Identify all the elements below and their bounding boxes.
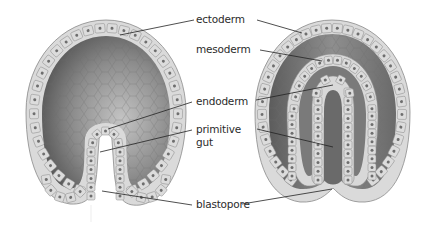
cell: [288, 129, 296, 137]
cell: [95, 23, 106, 33]
cell: [314, 176, 322, 184]
cell: [29, 109, 38, 119]
cell: [344, 114, 352, 122]
cell: [314, 114, 322, 122]
cell: [368, 138, 376, 146]
cell: [30, 94, 40, 105]
cell: [88, 138, 97, 147]
cell: [65, 192, 76, 203]
cell: [344, 132, 352, 140]
cell: [288, 112, 296, 120]
label-mesoderm: mesoderm: [196, 44, 250, 55]
cell: [114, 138, 123, 147]
cell: [314, 141, 322, 149]
cell: [397, 109, 406, 119]
cell: [314, 132, 322, 140]
cell: [344, 167, 352, 175]
cell: [288, 138, 296, 146]
cell: [257, 109, 266, 119]
cell: [314, 167, 322, 175]
cell: [332, 23, 343, 33]
cell: [368, 155, 376, 163]
cell: [314, 123, 322, 131]
cell: [344, 106, 352, 114]
cell: [116, 174, 124, 182]
cell: [87, 192, 95, 200]
cell: [368, 112, 376, 120]
late-gastrula-illustration: [255, 20, 410, 202]
cell: [172, 94, 182, 105]
cell: [116, 166, 124, 174]
cell: [288, 155, 296, 163]
cell: [368, 163, 376, 171]
cell: [368, 121, 376, 129]
cell: [344, 123, 352, 131]
ectoderm-leader-right: [257, 20, 302, 33]
cell: [333, 56, 342, 65]
cell: [116, 157, 124, 165]
cell: [312, 89, 321, 98]
cell: [173, 109, 182, 119]
cell: [396, 121, 407, 132]
cell: [87, 157, 95, 165]
cell: [107, 23, 118, 33]
cell: [344, 150, 352, 158]
cell: [321, 23, 332, 33]
cell: [41, 174, 51, 184]
cell: [288, 172, 296, 180]
cell: [345, 89, 354, 98]
cell: [116, 183, 124, 191]
label-blastopore: blastopore: [196, 199, 250, 210]
right-primitive-gut-lumen: [324, 90, 342, 185]
cell: [116, 148, 124, 156]
label-ectoderm: ectoderm: [196, 14, 245, 25]
cell: [344, 141, 352, 149]
cell: [342, 25, 354, 36]
cell: [314, 97, 322, 105]
cell: [310, 25, 322, 36]
cell: [288, 121, 296, 129]
cell: [396, 96, 406, 107]
cell: [30, 122, 41, 134]
cell: [87, 166, 95, 174]
gastrulation-diagram: [0, 0, 430, 225]
cell: [344, 97, 352, 105]
cell: [314, 158, 322, 166]
cell: [288, 146, 296, 154]
cell: [324, 56, 333, 65]
cell: [288, 163, 296, 171]
label-gut: gut: [196, 137, 213, 148]
cell: [344, 176, 352, 184]
cell: [314, 150, 322, 158]
cell: [368, 129, 376, 137]
cell: [161, 174, 171, 184]
cell: [290, 104, 298, 112]
cell: [87, 183, 95, 191]
cell: [87, 148, 95, 156]
cell: [87, 174, 95, 182]
cell: [171, 122, 182, 134]
cell: [368, 172, 376, 180]
cell: [344, 158, 352, 166]
cell: [368, 146, 376, 154]
cell: [368, 104, 376, 112]
label-endoderm: endoderm: [196, 96, 248, 107]
cell: [314, 106, 322, 114]
cell: [102, 127, 110, 135]
label-primitive: primitive: [196, 124, 241, 135]
